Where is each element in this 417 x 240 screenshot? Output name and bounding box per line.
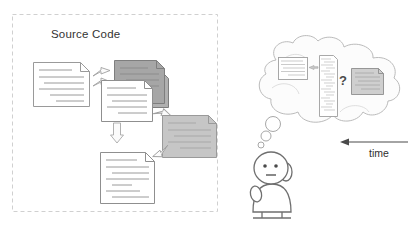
person-left-eye <box>263 164 267 168</box>
document-final <box>101 153 155 204</box>
question-mark-label: ? <box>339 73 347 88</box>
thought-bubble-medium <box>261 131 271 141</box>
person-right-eye <box>274 164 278 168</box>
document-v2-white <box>102 81 153 122</box>
thought-bubble-large <box>266 117 281 132</box>
thought-bubble-small <box>258 142 264 148</box>
cloud-document-small <box>279 58 308 80</box>
document-v3-gray <box>163 116 217 158</box>
cloud-code-listing <box>320 56 338 117</box>
person-head <box>254 152 288 184</box>
source-code-title: Source Code <box>51 28 120 40</box>
document-v1 <box>34 63 90 107</box>
cloud-document-gray <box>352 69 384 95</box>
time-axis-label: time <box>369 147 389 159</box>
